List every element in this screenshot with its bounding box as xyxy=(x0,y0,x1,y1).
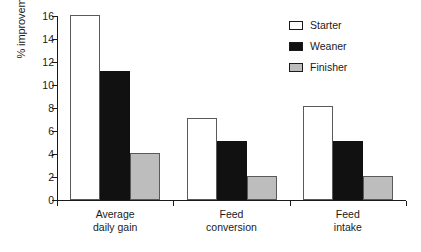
bar-starter-3 xyxy=(303,106,333,200)
bar-starter-2 xyxy=(187,118,217,200)
bar-finisher-3 xyxy=(363,176,393,200)
y-tick-label: 14 xyxy=(42,31,54,47)
y-tick-label: 4 xyxy=(48,146,54,162)
x-axis-line xyxy=(57,200,406,201)
legend-swatch-starter xyxy=(289,21,303,30)
x-tick-mark xyxy=(406,201,407,206)
legend-label-weaner: Weaner xyxy=(310,40,347,53)
y-tick-label: 8 xyxy=(48,100,54,116)
x-tick-mark xyxy=(290,201,291,206)
y-tick-label: 16 xyxy=(42,8,54,24)
x-tick-mark xyxy=(57,201,58,206)
bar-weaner-2 xyxy=(217,141,247,200)
bar-starter-1 xyxy=(70,15,100,200)
y-axis-line xyxy=(57,16,58,201)
x-tick-mark xyxy=(173,201,174,206)
legend-item-weaner: Weaner xyxy=(289,38,347,55)
y-axis-title: % improvement xyxy=(13,0,29,76)
bar-chart: % improvement 0246810121416 Averagedaily… xyxy=(0,0,421,252)
legend-item-finisher: Finisher xyxy=(289,59,347,76)
bar-finisher-2 xyxy=(247,176,277,200)
bar-finisher-1 xyxy=(130,153,160,200)
legend-label-starter: Starter xyxy=(310,19,342,32)
legend-item-starter: Starter xyxy=(289,17,347,34)
bar-weaner-1 xyxy=(100,71,130,200)
plot-area: 0246810121416 xyxy=(57,16,406,201)
y-tick-label: 10 xyxy=(42,77,54,93)
bar-weaner-3 xyxy=(333,141,363,200)
category-label-2: Feedconversion xyxy=(173,208,289,234)
y-tick-label: 2 xyxy=(48,169,54,185)
category-label-1: Averagedaily gain xyxy=(57,208,173,234)
legend-swatch-weaner xyxy=(289,42,303,51)
category-label-3: Feedintake xyxy=(290,208,406,234)
legend-label-finisher: Finisher xyxy=(310,61,347,74)
y-tick-label: 12 xyxy=(42,54,54,70)
y-tick-label: 0 xyxy=(48,192,54,208)
legend-swatch-finisher xyxy=(289,63,303,72)
chart-legend: StarterWeanerFinisher xyxy=(289,17,347,80)
y-tick-label: 6 xyxy=(48,123,54,139)
